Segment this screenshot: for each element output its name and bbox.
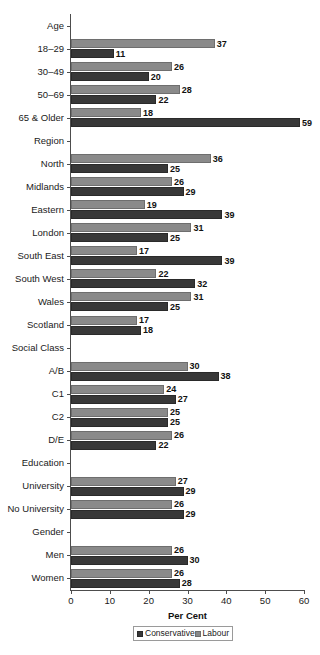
category-label: North — [41, 159, 64, 169]
bar-conservative: 27 — [71, 395, 176, 404]
bar-value-labour: 17 — [139, 316, 149, 325]
bar-value-conservative: 20 — [151, 72, 161, 81]
bar-conservative: 22 — [71, 95, 156, 104]
bar-value-conservative: 25 — [170, 233, 180, 242]
bar-labour: 31 — [71, 223, 191, 232]
x-axis-tick-label: 0 — [68, 596, 73, 606]
legend-item-labour: Labour — [195, 629, 229, 638]
bar-labour: 26 — [71, 431, 172, 440]
bar-labour: 17 — [71, 246, 137, 255]
group-header-row: Region — [71, 129, 304, 152]
bar-value-labour: 19 — [147, 200, 157, 209]
bar-value-labour: 36 — [213, 154, 223, 163]
legend-label-labour: Labour — [203, 629, 229, 638]
bar-conservative: 22 — [71, 441, 156, 450]
data-row: Eastern1939 — [71, 198, 304, 221]
bar-labour: 18 — [71, 108, 141, 117]
bar-value-labour: 26 — [174, 500, 184, 509]
bar-value-conservative: 30 — [190, 556, 200, 565]
x-axis-tick — [71, 590, 72, 594]
bar-conservative: 29 — [71, 187, 184, 196]
data-row: 65 & Older1859 — [71, 106, 304, 129]
category-label: C2 — [52, 412, 64, 422]
bar-conservative: 18 — [71, 326, 141, 335]
bar-value-labour: 26 — [174, 62, 184, 71]
plot-area: Age18–29371130–49262050–69282265 & Older… — [71, 14, 304, 590]
chart-legend: Conservative Labour — [133, 626, 233, 641]
bar-value-labour: 27 — [178, 477, 188, 486]
bar-labour: 28 — [71, 85, 180, 94]
category-label: University — [22, 481, 64, 491]
category-label: 65 & Older — [19, 113, 64, 123]
bar-value-labour: 25 — [170, 408, 180, 417]
bar-value-conservative: 29 — [186, 510, 196, 519]
data-row: South East1739 — [71, 244, 304, 267]
bar-value-labour: 31 — [193, 292, 203, 301]
category-label: 30–49 — [38, 67, 64, 77]
category-label: D/E — [48, 435, 64, 445]
bar-conservative: 25 — [71, 164, 168, 173]
bar-value-conservative: 18 — [143, 326, 153, 335]
bar-labour: 31 — [71, 292, 191, 301]
bar-value-labour: 17 — [139, 246, 149, 255]
bar-value-conservative: 22 — [158, 95, 168, 104]
bar-conservative: 11 — [71, 49, 114, 58]
bar-labour: 36 — [71, 154, 211, 163]
bar-value-conservative: 29 — [186, 187, 196, 196]
category-label: South West — [15, 274, 64, 284]
bar-conservative: 25 — [71, 302, 168, 311]
category-label: London — [32, 228, 64, 238]
data-row: 18–293711 — [71, 37, 304, 60]
data-row: South West2232 — [71, 267, 304, 290]
x-axis-tick — [110, 590, 111, 594]
data-row: D/E2622 — [71, 429, 304, 452]
category-label: 18–29 — [38, 44, 64, 54]
bar-value-labour: 30 — [190, 362, 200, 371]
data-row: A/B3038 — [71, 360, 304, 383]
x-axis-tick — [226, 590, 227, 594]
bar-conservative: 28 — [71, 579, 180, 588]
bar-value-conservative: 39 — [224, 210, 234, 219]
data-row: C22525 — [71, 406, 304, 429]
bar-value-conservative: 22 — [158, 441, 168, 450]
x-axis-tick — [188, 590, 189, 594]
data-row: Women2628 — [71, 567, 304, 590]
bar-value-conservative: 39 — [224, 256, 234, 265]
legend-label-conservative: Conservative — [145, 629, 195, 638]
data-row: 30–492620 — [71, 60, 304, 83]
bar-conservative: 39 — [71, 256, 222, 265]
x-axis-tick — [265, 590, 266, 594]
data-row: London3125 — [71, 221, 304, 244]
bar-conservative: 20 — [71, 72, 149, 81]
bar-value-labour: 26 — [174, 431, 184, 440]
bar-conservative: 25 — [71, 233, 168, 242]
bar-conservative: 25 — [71, 418, 168, 427]
bar-labour: 27 — [71, 477, 176, 486]
bar-labour: 26 — [71, 546, 172, 555]
category-label: Social Class — [12, 343, 64, 353]
bar-conservative: 59 — [71, 118, 300, 127]
data-row: No University2629 — [71, 498, 304, 521]
category-label: Eastern — [31, 205, 64, 215]
y-axis-tick — [67, 532, 71, 533]
data-row: Wales3125 — [71, 290, 304, 313]
bar-chart: Age18–29371130–49262050–69282265 & Older… — [0, 0, 320, 655]
category-label: Men — [46, 550, 64, 560]
category-label: 50–69 — [38, 90, 64, 100]
bar-conservative: 30 — [71, 556, 188, 565]
x-axis-tick-label: 40 — [221, 596, 232, 606]
bar-value-labour: 37 — [217, 39, 227, 48]
bar-value-labour: 26 — [174, 177, 184, 186]
bar-value-labour: 22 — [158, 269, 168, 278]
category-label: Midlands — [26, 182, 64, 192]
bar-labour: 37 — [71, 39, 215, 48]
bar-labour: 30 — [71, 362, 188, 371]
bar-value-conservative: 59 — [302, 118, 312, 127]
group-header-row: Education — [71, 452, 304, 475]
bar-value-conservative: 29 — [186, 487, 196, 496]
bar-value-conservative: 27 — [178, 395, 188, 404]
bar-labour: 26 — [71, 62, 172, 71]
bar-labour: 19 — [71, 200, 145, 209]
data-row: Men2630 — [71, 544, 304, 567]
category-label: A/B — [49, 366, 64, 376]
